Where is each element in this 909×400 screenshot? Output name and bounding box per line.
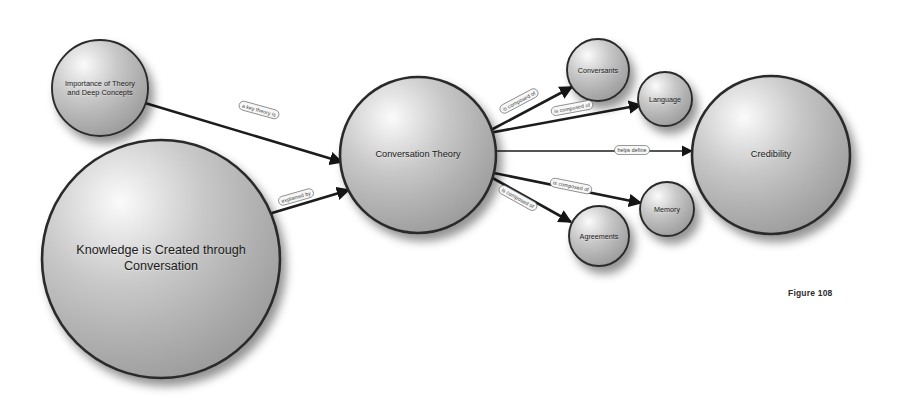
node-language[interactable]	[638, 72, 692, 126]
node-memory[interactable]	[640, 182, 694, 236]
node-conversation-theory[interactable]	[340, 77, 496, 233]
diagram-canvas: a key theory isexplained byis composed o…	[0, 0, 909, 400]
node-conversants[interactable]	[567, 39, 629, 101]
edge-label-knowledge-to-theory[interactable]: explained by	[277, 188, 314, 207]
figure-caption: Figure 108	[788, 288, 833, 298]
node-importance-of-theory[interactable]	[52, 40, 148, 136]
node-credibility[interactable]	[692, 76, 850, 234]
edge-label-theory-to-memory[interactable]: is composed of	[550, 177, 593, 194]
edge-label-theory-to-agreements[interactable]: is composed of	[497, 184, 538, 212]
node-agreements[interactable]	[569, 206, 629, 266]
nodes-layer	[42, 39, 850, 378]
concept-map-diagram: a key theory isexplained byis composed o…	[0, 0, 909, 400]
edge-label-caption: helps define	[617, 147, 646, 153]
edge-label-importance-to-theory[interactable]: a key theory is	[238, 100, 280, 120]
edge-label-theory-to-conversants[interactable]: is composed of	[498, 87, 539, 115]
edge-label-theory-to-credibility[interactable]: helps define	[615, 146, 650, 155]
node-knowledge-created[interactable]	[42, 140, 280, 378]
